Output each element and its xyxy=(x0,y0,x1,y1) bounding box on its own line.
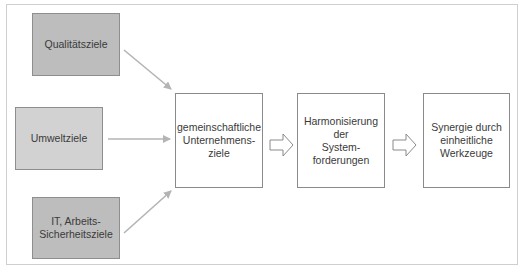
stage-label: Synergie durch einheitliche Werkzeuge xyxy=(431,121,502,160)
source-box-qualitaetsziele: Qualitätsziele xyxy=(32,13,120,76)
stage-label: Harmonisierung der System- forderungen xyxy=(304,115,378,167)
stage-box-harmonisierung: Harmonisierung der System- forderungen xyxy=(297,93,385,188)
stage-box-synergie: Synergie durch einheitliche Werkzeuge xyxy=(423,93,510,188)
source-label: IT, Arbeits- Sicherheitsziele xyxy=(39,215,113,241)
stage-box-gemeinschaftliche-ziele: gemeinschaftliche Unternehmens- ziele xyxy=(175,93,263,188)
block-arrow-1 xyxy=(270,134,293,156)
stage-label: gemeinschaftliche Unternehmens- ziele xyxy=(177,121,261,160)
source-label: Qualitätsziele xyxy=(44,38,107,51)
arrow-qualitaet-to-gemeinsam xyxy=(124,50,171,89)
source-box-it-arbeitssicherheit: IT, Arbeits- Sicherheitsziele xyxy=(32,197,120,259)
block-arrow-2 xyxy=(393,134,416,156)
source-label: Umweltziele xyxy=(31,132,88,145)
arrow-it-to-gemeinsam xyxy=(124,191,171,233)
source-box-umweltziele: Umweltziele xyxy=(15,107,103,170)
